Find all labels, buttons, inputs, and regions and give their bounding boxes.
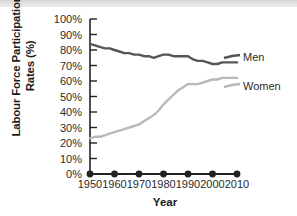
data-series-layer (90, 44, 240, 174)
legend-label-women: Women (243, 80, 281, 92)
baseline-marker (160, 171, 167, 178)
series-line-men (90, 44, 237, 64)
baseline-marker (136, 171, 143, 178)
legend-swatch-women (224, 84, 240, 87)
baseline-marker (111, 171, 118, 178)
baseline-marker (209, 171, 216, 178)
legend-swatch-men (224, 55, 240, 58)
baseline-marker (87, 171, 94, 178)
baseline-marker (234, 171, 241, 178)
chart-figure: Labour Force Participation Rates (%) 0%1… (0, 0, 297, 216)
baseline-marker (185, 171, 192, 178)
plot-area (0, 0, 297, 216)
legend-label-men: Men (243, 51, 264, 63)
y-axis-tick-marks (90, 19, 97, 174)
series-line-women (90, 78, 237, 138)
x-axis-title: Year (90, 196, 240, 208)
